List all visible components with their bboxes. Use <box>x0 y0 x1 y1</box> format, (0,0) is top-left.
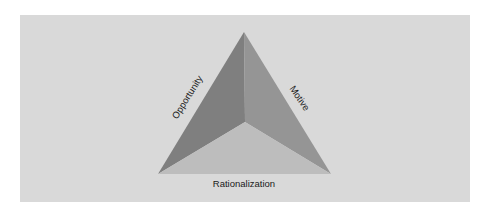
label-motive: Motive <box>288 83 313 112</box>
label-rationalization: Rationalization <box>213 178 275 189</box>
fraud-triangle-diagram: Opportunity Motive Rationalization <box>0 0 493 215</box>
